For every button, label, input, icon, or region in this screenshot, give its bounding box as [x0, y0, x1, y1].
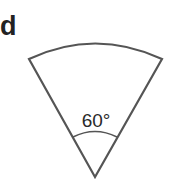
sector-diagram: 60° — [0, 0, 170, 186]
angle-label: 60° — [82, 110, 111, 131]
angle-arc — [73, 132, 117, 138]
